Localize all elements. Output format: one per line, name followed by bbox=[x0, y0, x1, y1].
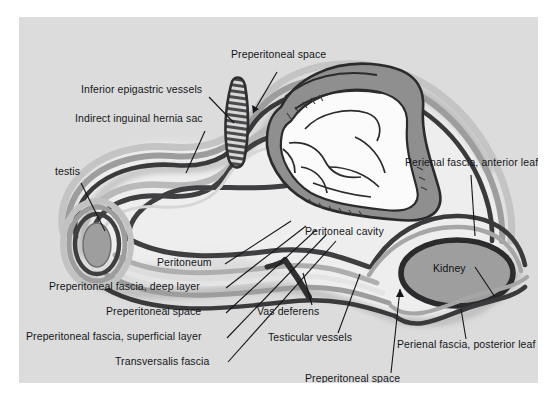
label-testicular-vessels: Testicular vessels bbox=[268, 331, 352, 343]
testis-body bbox=[83, 223, 111, 267]
label-preperitoneal-space-bottom: Preperitoneal space bbox=[305, 372, 400, 383]
label-preperitoneal-fascia-deep-layer: Preperitoneal fascia, deep layer bbox=[49, 280, 200, 292]
figure-root: Preperitoneal space Inferior epigastric … bbox=[0, 0, 557, 403]
label-peritoneum: Peritoneum bbox=[157, 256, 212, 268]
diagram-panel: Preperitoneal space Inferior epigastric … bbox=[19, 17, 538, 383]
inferior-epigastric-vessels-group bbox=[226, 78, 248, 168]
label-vas-deferens: Vas deferens bbox=[257, 305, 319, 317]
label-perienal-fascia-anterior-leaf: Perienal fascia, anterior leaf bbox=[405, 156, 538, 168]
label-preperitoneal-space-left: Preperitoneal space bbox=[106, 305, 201, 317]
label-preperitoneal-fascia-superficial-layer: Preperitoneal fascia, superficial layer bbox=[26, 330, 201, 342]
label-peritoneal-cavity: Peritoneal cavity bbox=[305, 225, 384, 237]
label-preperitoneal-space-top: Preperitoneal space bbox=[231, 48, 326, 60]
label-perienal-fascia-posterior-leaf: Perienal fascia, posterior leaf bbox=[397, 338, 536, 350]
label-indirect-inguinal-hernia-sac: Indirect inguinal hernia sac bbox=[75, 112, 203, 124]
label-inferior-epigastric-vessels: Inferior epigastric vessels bbox=[81, 83, 202, 95]
inferior-epigastric-vessels-lumen bbox=[226, 78, 248, 168]
label-kidney: Kidney bbox=[433, 262, 466, 274]
anatomy-illustration bbox=[19, 17, 538, 383]
label-transversalis-fascia: Transversalis fascia bbox=[115, 355, 209, 367]
label-testis: testis bbox=[55, 165, 80, 177]
